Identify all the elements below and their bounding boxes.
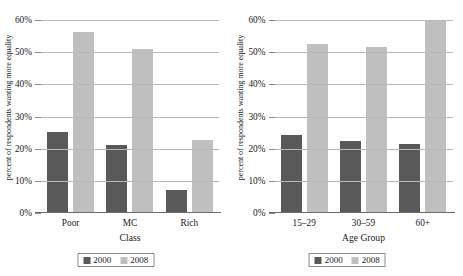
- bar-2008: [366, 47, 387, 213]
- y-axis-tick: [269, 149, 275, 150]
- gridline: [41, 181, 219, 182]
- x-axis-title: Class: [41, 232, 219, 243]
- y-axis-tick: [269, 117, 275, 118]
- y-axis-tick-label: 20%: [248, 144, 265, 154]
- gridline: [41, 20, 219, 21]
- bar-2000: [47, 132, 68, 213]
- bar-2000: [106, 145, 127, 214]
- y-axis-tick-label: 0%: [20, 208, 32, 218]
- plot-area-class: PoorMCRich 0%10%20%30%40%50%60%: [41, 20, 219, 213]
- y-axis-tick-label: 30%: [15, 112, 32, 122]
- y-axis-tick-label: 60%: [15, 15, 32, 25]
- chart-panel-age-group: percent of respondents wanting more equa…: [232, 0, 463, 276]
- bar-2000: [399, 144, 420, 213]
- y-axis-tick: [35, 181, 41, 182]
- legend-label-2000: 2000: [325, 255, 343, 265]
- bar-2008: [192, 140, 213, 213]
- gridline: [275, 84, 453, 85]
- y-axis-tick-label: 10%: [15, 176, 32, 186]
- y-axis-tick-label: 10%: [248, 176, 265, 186]
- y-axis-tick: [35, 52, 41, 53]
- gridline: [275, 20, 453, 21]
- y-axis-tick-label: 50%: [15, 47, 32, 57]
- y-axis-tick: [35, 149, 41, 150]
- x-axis-tick-label: 15–29: [293, 218, 316, 228]
- y-axis-tick: [269, 20, 275, 21]
- y-axis-tick-label: 30%: [248, 112, 265, 122]
- bar-2008: [73, 32, 94, 213]
- y-axis-title: percent of respondents wanting more equa…: [234, 0, 248, 215]
- y-axis-tick: [35, 20, 41, 21]
- y-axis-tick-label: 20%: [15, 144, 32, 154]
- x-axis-line: [269, 212, 455, 213]
- gridline: [41, 52, 219, 53]
- gridline: [41, 149, 219, 150]
- bar-2000: [281, 135, 302, 213]
- gridline: [275, 52, 453, 53]
- legend-item-2008: 2008: [352, 255, 380, 265]
- y-axis-title: percent of respondents wanting more equa…: [2, 0, 16, 215]
- legend-label-2008: 2008: [362, 255, 380, 265]
- y-axis-tick: [269, 52, 275, 53]
- y-axis-tick: [269, 181, 275, 182]
- legend-item-2000: 2000: [315, 255, 343, 265]
- legend-age-group-chart: 2000 2008: [309, 253, 386, 267]
- x-axis-line: [35, 212, 221, 213]
- x-axis-tick-label: MC: [123, 218, 137, 228]
- bar-2008: [307, 44, 328, 213]
- gridline: [41, 117, 219, 118]
- y-axis-tick-label: 60%: [248, 15, 265, 25]
- legend-class-chart: 2000 2008: [77, 253, 154, 267]
- dual-bar-chart-figure: percent of respondents wanting more equa…: [0, 0, 463, 276]
- gridline: [275, 181, 453, 182]
- chart-panel-class: percent of respondents wanting more equa…: [0, 0, 232, 276]
- x-axis-tick-label: Rich: [181, 218, 199, 228]
- legend-item-2000: 2000: [83, 255, 111, 265]
- y-axis-tick: [35, 117, 41, 118]
- gridline: [275, 117, 453, 118]
- legend-label-2000: 2000: [93, 255, 111, 265]
- legend-label-2008: 2008: [130, 255, 148, 265]
- bar-2000: [166, 190, 187, 213]
- gridline: [275, 149, 453, 150]
- legend-item-2008: 2008: [120, 255, 148, 265]
- legend-swatch-2000-icon: [83, 257, 90, 264]
- y-axis-tick: [35, 84, 41, 85]
- legend-swatch-2000-icon: [315, 257, 322, 264]
- y-axis-tick: [269, 84, 275, 85]
- y-axis-tick-label: 40%: [248, 79, 265, 89]
- bar-2000: [340, 141, 361, 213]
- y-axis-tick-label: 0%: [253, 208, 265, 218]
- bar-2008: [132, 49, 153, 213]
- x-axis-tick-label: Poor: [62, 218, 80, 228]
- gridline: [41, 84, 219, 85]
- legend-swatch-2008-icon: [120, 257, 127, 264]
- y-axis-tick-label: 40%: [15, 79, 32, 89]
- x-axis-tick-label: 60+: [416, 218, 431, 228]
- legend-swatch-2008-icon: [352, 257, 359, 264]
- y-axis-tick-label: 50%: [248, 47, 265, 57]
- y-axis-tick: [35, 213, 41, 214]
- x-axis-title: Age Group: [275, 232, 453, 243]
- plot-area-age-group: 15–2930–5960+ 0%10%20%30%40%50%60%: [275, 20, 453, 213]
- x-axis-tick-label: 30–59: [352, 218, 375, 228]
- y-axis-tick: [269, 213, 275, 214]
